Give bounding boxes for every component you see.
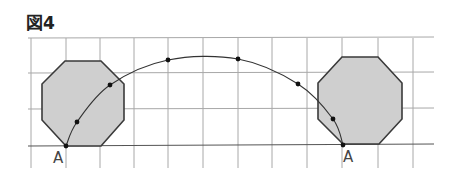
locus-point bbox=[108, 83, 113, 88]
octagon-end bbox=[318, 57, 402, 144]
locus-point bbox=[236, 57, 241, 62]
point-label-a: A bbox=[343, 148, 354, 166]
octagons bbox=[42, 57, 402, 146]
locus-point bbox=[296, 82, 301, 87]
octagon-start bbox=[42, 61, 124, 146]
point-label-a: A bbox=[53, 149, 64, 167]
octagon-rolling-diagram: AA bbox=[0, 0, 456, 178]
locus-point bbox=[166, 58, 171, 63]
locus-point bbox=[64, 144, 69, 149]
grid-line-horizontal bbox=[28, 37, 434, 38]
locus-point bbox=[331, 117, 336, 122]
locus-point bbox=[75, 120, 80, 125]
locus-point bbox=[341, 143, 346, 148]
